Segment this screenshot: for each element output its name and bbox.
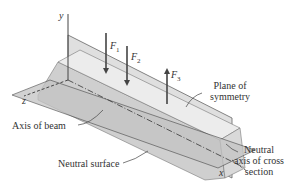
force-f3-label: F3 xyxy=(171,69,181,85)
leader-neutral-surface xyxy=(123,151,148,163)
x-axis-label: x xyxy=(219,167,223,178)
neutral-surface-label: Neutral surface xyxy=(58,158,119,169)
y-axis-label: y xyxy=(59,10,63,21)
force-f1-label: F1 xyxy=(110,40,120,56)
force-f2-label: F2 xyxy=(131,51,141,67)
plane-of-symmetry-label: Plane ofsymmetry xyxy=(205,80,255,102)
z-axis-label: z xyxy=(22,95,26,106)
beam-diagram: y z x F1 F2 F3 Plane ofsymmetry Axis of … xyxy=(0,0,289,189)
axis-of-beam-label: Axis of beam xyxy=(12,120,66,131)
neutral-axis-label: Neutralaxis of crosssection xyxy=(230,144,288,177)
